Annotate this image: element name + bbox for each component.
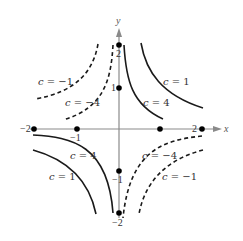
- tick-y-1: 1: [111, 83, 116, 93]
- label-value: = −1: [168, 171, 197, 182]
- label-value: = 4: [76, 150, 97, 161]
- tick-x-neg2: −2: [20, 124, 31, 134]
- diagram-graphics: [0, 0, 243, 241]
- point-x-neg1: [74, 126, 80, 132]
- label-value: = −1: [44, 76, 73, 87]
- tick-y-2: 2: [116, 49, 121, 59]
- label-value: = 1: [55, 171, 76, 182]
- tick-y-neg1: −1: [112, 175, 123, 185]
- label-value: = −4: [71, 97, 100, 108]
- label-q3-c4: c = 4: [70, 151, 97, 161]
- label-value: = 1: [169, 76, 190, 87]
- label-q4-cneg4: c = −4: [142, 151, 177, 161]
- label-q3-c1: c = 1: [49, 172, 76, 182]
- label-q1-c4: c = 4: [143, 98, 170, 108]
- y-axis-label: y: [116, 16, 120, 26]
- point-y-2: [116, 42, 122, 48]
- point-x-neg2: [31, 126, 37, 132]
- label-q1-c1: c = 1: [163, 77, 190, 87]
- point-x-1: [157, 126, 163, 132]
- point-y-neg1: [116, 168, 122, 174]
- tick-x-2: 2: [192, 124, 197, 134]
- label-q4-cneg1: c = −1: [162, 172, 197, 182]
- curve-q2-cneg1: [35, 44, 98, 99]
- point-y-1: [116, 85, 122, 91]
- label-value: = 4: [149, 97, 170, 108]
- label-q2-cneg4: c = −4: [65, 98, 100, 108]
- point-x-2: [199, 126, 205, 132]
- x-axis-arrow-icon: [213, 126, 222, 132]
- level-curves-diagram: y x −2 −1 2 2 1 −1 −2 c = 1 c = 4 c = −1…: [0, 0, 243, 241]
- point-y-neg2: [116, 210, 122, 216]
- x-axis-label: x: [224, 124, 228, 134]
- tick-y-neg2: −2: [112, 218, 123, 228]
- tick-x-neg1: −1: [70, 133, 81, 143]
- label-value: = −4: [148, 150, 177, 161]
- y-axis-arrow-icon: [116, 28, 122, 37]
- label-q2-cneg1: c = −1: [38, 77, 73, 87]
